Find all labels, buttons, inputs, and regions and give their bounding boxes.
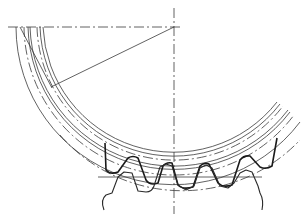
gear-diagram — [0, 0, 306, 219]
drawing-canvas — [0, 0, 306, 219]
radius-line — [51, 27, 174, 87]
concentric-arcs — [16, 27, 300, 191]
